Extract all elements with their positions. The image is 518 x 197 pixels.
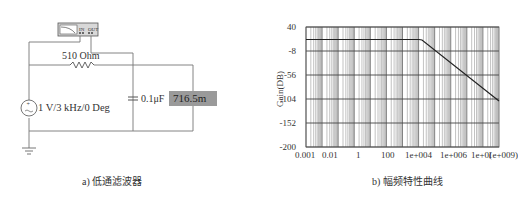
voltmeter-display: 716.5m bbox=[169, 91, 217, 106]
x-tick: 100 bbox=[381, 150, 395, 160]
x-tick: 1e+004 bbox=[405, 150, 432, 160]
bode-plotter-icon[interactable]: IN OUT bbox=[58, 23, 98, 36]
ac-source-icon: + bbox=[21, 100, 37, 116]
x-tick: 0.01 bbox=[322, 150, 338, 160]
source-label: 1 V/3 kHz/0 Deg bbox=[38, 102, 110, 113]
x-tick: 0.001 bbox=[295, 150, 315, 160]
ground-icon bbox=[22, 148, 36, 154]
circuit-caption: a) 低通滤波器 bbox=[82, 173, 142, 188]
chart-panel: Gain(DB) 40 -8 -56 -104 -152 -200 0.001 … bbox=[250, 0, 513, 197]
svg-text:OUT: OUT bbox=[88, 27, 98, 32]
plot-grid bbox=[306, 27, 499, 147]
x-tick: 1 bbox=[356, 150, 361, 160]
svg-text:IN: IN bbox=[79, 27, 85, 32]
circuit-panel: IN OUT + bbox=[0, 0, 240, 197]
x-tick: 1e+009) bbox=[488, 150, 518, 160]
x-tick: 1e+006 bbox=[440, 150, 467, 160]
resistor-label: 510 Ohm bbox=[62, 50, 100, 61]
resistor-icon bbox=[70, 62, 94, 68]
chart-caption: b) 幅频特性曲线 bbox=[372, 173, 443, 188]
bode-plot bbox=[250, 0, 513, 197]
capacitor-label: 0.1μF bbox=[141, 93, 164, 104]
